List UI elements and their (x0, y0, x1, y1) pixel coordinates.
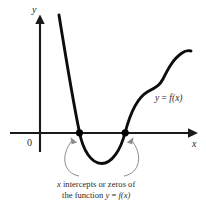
x-intercept-dot-2 (122, 129, 129, 136)
pointer-arrowhead-left (71, 137, 78, 144)
pointer-arrowhead-right (127, 137, 134, 144)
x-axis-arrowhead (188, 128, 198, 138)
caption-line-2-arg: (x) (121, 190, 131, 200)
curve-label-arg: (x) (172, 93, 183, 104)
caption-line-2-prefix: the function (62, 190, 105, 200)
x-intercept-dot-1 (76, 129, 83, 136)
y-axis-label: y (31, 4, 37, 15)
y-axis-arrowhead (35, 15, 44, 25)
curve-label: y = f(x) (154, 93, 183, 104)
x-axis-label: x (191, 138, 197, 149)
caption-line-2: the function y = f(x) (62, 190, 130, 200)
function-graph-figure: y x 0 y = f(x) x intercepts or zeros of … (0, 0, 206, 209)
caption-line-1: x intercepts or zeros of (56, 179, 135, 189)
caption-line-1-rest: intercepts or zeros of (61, 179, 136, 189)
pointer-arc-right (124, 140, 139, 176)
caption-line-2-equals: = (109, 190, 118, 200)
function-curve (59, 15, 191, 164)
origin-label: 0 (27, 137, 32, 148)
pointer-arc-left (65, 140, 79, 176)
graph-canvas: y x 0 y = f(x) x intercepts or zeros of … (0, 0, 206, 209)
